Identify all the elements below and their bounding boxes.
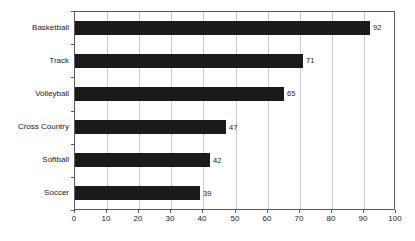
y-tick-mark [71,177,74,178]
plot-area [74,11,395,210]
y-tick-mark [71,11,74,12]
x-tick-mark [138,210,139,213]
bar [75,153,210,167]
x-tick-label: 20 [123,214,153,224]
y-tick-mark [71,144,74,145]
x-tick-label: 30 [155,214,185,224]
bar [75,87,284,101]
x-tick-label: 40 [187,214,217,224]
x-tick-label: 80 [316,214,346,224]
y-tick-mark [71,44,74,45]
category-label: Soccer [0,188,69,198]
bar-value-label: 39 [203,189,211,198]
gridline [332,12,333,209]
x-tick-label: 70 [284,214,314,224]
bar [75,186,200,200]
bar [75,54,303,68]
gridline [203,12,204,209]
bar-value-label: 47 [229,123,237,132]
bar [75,21,370,35]
category-label: Volleyball [0,89,69,99]
gridline [300,12,301,209]
y-tick-mark [71,210,74,211]
bar-chart: 010203040506070809010092Basketball71Trac… [0,0,415,241]
x-tick-mark [299,210,300,213]
x-tick-label: 50 [220,214,250,224]
gridline [236,12,237,209]
bar-value-label: 65 [287,89,295,98]
x-tick-mark [170,210,171,213]
x-tick-mark [331,210,332,213]
gridline [107,12,108,209]
x-tick-mark [74,210,75,213]
gridline [139,12,140,209]
x-tick-mark [202,210,203,213]
gridline [268,12,269,209]
bar-value-label: 71 [306,56,314,65]
x-tick-mark [363,210,364,213]
y-tick-mark [71,111,74,112]
bar-value-label: 42 [213,156,221,165]
x-tick-label: 0 [59,214,89,224]
category-label: Track [0,56,69,66]
x-tick-label: 100 [380,214,410,224]
x-tick-mark [395,210,396,213]
gridline [171,12,172,209]
bar-value-label: 92 [373,23,381,32]
category-label: Cross Country [0,122,69,132]
x-tick-label: 90 [348,214,378,224]
bar [75,120,226,134]
y-tick-mark [71,77,74,78]
x-tick-mark [235,210,236,213]
x-tick-mark [106,210,107,213]
category-label: Softball [0,155,69,165]
gridline [364,12,365,209]
category-label: Basketball [0,23,69,33]
x-tick-label: 60 [252,214,282,224]
x-tick-label: 10 [91,214,121,224]
x-tick-mark [267,210,268,213]
